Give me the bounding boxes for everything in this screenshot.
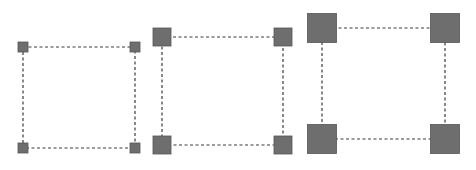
resize-handle-top-left[interactable]: [308, 14, 337, 43]
resize-handle-bottom-left[interactable]: [18, 143, 28, 153]
resize-handle-top-right[interactable]: [130, 42, 140, 52]
diagram-canvas: [0, 0, 476, 170]
resize-handle-bottom-right[interactable]: [130, 143, 140, 153]
resize-handle-bottom-left[interactable]: [308, 125, 337, 154]
resize-handle-top-left[interactable]: [153, 28, 171, 46]
resize-handle-bottom-right[interactable]: [431, 125, 460, 154]
resize-handle-bottom-right[interactable]: [274, 136, 292, 154]
bounding-box-medium-handles: [153, 28, 292, 154]
resize-handle-bottom-left[interactable]: [153, 136, 171, 154]
resize-handle-top-right[interactable]: [431, 14, 460, 43]
bounding-box-large-handles: [308, 14, 460, 154]
resize-handle-top-right[interactable]: [274, 28, 292, 46]
dashed-outline: [322, 28, 445, 139]
dashed-outline: [23, 47, 135, 148]
resize-handle-top-left[interactable]: [18, 42, 28, 52]
bounding-box-small-handles: [18, 42, 140, 153]
dashed-outline: [162, 37, 283, 145]
